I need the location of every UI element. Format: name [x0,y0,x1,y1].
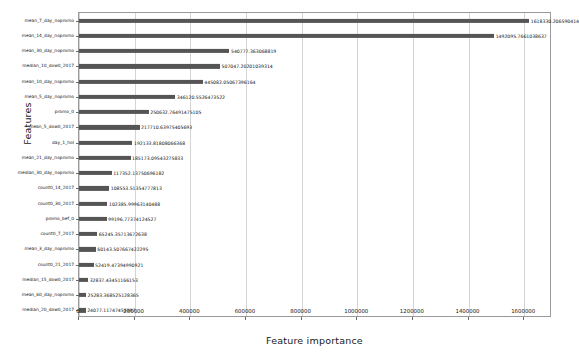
x-axis-tick-label: 1000000 [344,308,368,314]
y-axis-tick-label: mean_7_day_nopromo [0,17,74,22]
y-tick-mark [76,127,79,128]
bar [79,232,97,236]
x-axis-tick-label: 1200000 [400,308,424,314]
bar [79,202,107,206]
x-axis-tick-label: 0 [76,308,79,314]
x-tick-mark [523,317,524,320]
y-tick-mark [76,97,79,98]
bar [79,34,494,38]
y-tick-mark [76,36,79,37]
gridline-x-7 [469,13,470,316]
bar-value-label: 117352.13750696182 [113,171,164,176]
bar-value-label: 250632.76491475105 [150,110,201,115]
y-tick-mark [76,66,79,67]
bar [79,263,94,267]
bar-value-label: 346120.5526473522 [177,94,225,99]
y-tick-mark [76,265,79,266]
y-axis-tick-label: median_10_dow0_2017 [0,63,74,68]
y-axis-tick-label: count0_21_2017 [0,261,74,266]
y-axis-tick-label: mean_3_day_nopromo [0,246,74,251]
bar-value-label: 540777.363068819 [231,49,276,54]
x-tick-mark [78,317,79,320]
plot-area: 1618330.2065904141492095.766103863754077… [78,12,551,317]
y-tick-mark [76,173,79,174]
y-tick-mark [76,158,79,159]
bar-value-label: 52419.47394990921 [95,262,143,267]
bar [79,125,140,129]
bar [79,110,149,114]
bar [79,156,131,160]
y-tick-mark [76,234,79,235]
y-axis-tick-label: mean_14_day_nopromo [0,32,74,37]
gridline-x-8 [524,13,525,316]
x-axis-tick-label: 1400000 [456,308,480,314]
bar-value-label: 507047.20201039314 [222,64,273,69]
x-tick-mark [134,317,135,320]
y-tick-mark [76,280,79,281]
x-tick-mark [301,317,302,320]
y-axis-tick-label: median_20_dow0_2017 [0,307,74,312]
x-axis-tick-label: 200000 [123,308,144,314]
y-tick-mark [76,249,79,250]
bar [79,95,175,99]
bar-value-label: 217710.63975405693 [141,125,192,130]
gridline-x-1 [135,13,136,316]
y-axis-tick-label: mean_5_day_nopromo [0,93,74,98]
bar-value-label: 60143.507667422295 [97,247,148,252]
x-tick-mark [189,317,190,320]
y-tick-mark [76,143,79,144]
x-axis-tick-label: 1600000 [511,308,535,314]
bar [79,293,86,297]
bar [79,278,88,282]
y-tick-mark [76,82,79,83]
y-axis-tick-label: mean_30_day_nopromo [0,48,74,53]
y-tick-mark [76,21,79,22]
bar [79,217,107,221]
bar-value-label: 25283.368525128365 [88,293,139,298]
gridline-x-4 [302,13,303,316]
x-tick-mark [468,317,469,320]
x-axis-tick-label: 600000 [235,308,256,314]
y-tick-mark [76,219,79,220]
bar-value-label: 99196.77374124527 [108,216,156,221]
y-axis-tick-label: day_1_hol [0,139,74,144]
y-axis-tick-label: count0_7_2017 [0,231,74,236]
bar-value-label: 108553.51354777813 [111,186,162,191]
bar [79,64,220,68]
bar-value-label: 445082.05067396164 [204,79,255,84]
x-tick-mark [412,317,413,320]
x-tick-mark [356,317,357,320]
y-axis-tick-label: count0_30_2017 [0,200,74,205]
y-axis-tick-label: median_15_dow0_2017 [0,276,74,281]
y-axis-tick-label: mean_10_day_nopromo [0,78,74,83]
y-axis-tick-label: count0_14_2017 [0,185,74,190]
y-axis-tick-label: promo_0 [0,109,74,114]
bar [79,19,529,23]
y-tick-mark [76,51,79,52]
bar [79,141,132,145]
y-axis-tick-label: promo_bef_0 [0,215,74,220]
bar-value-label: 32837.43451166153 [90,277,138,282]
y-axis-tick-label: mean_5_dow0_2017 [0,124,74,129]
x-tick-mark [245,317,246,320]
bar [79,186,109,190]
gridline-x-0 [79,13,80,316]
bar-value-label: 65245.35713672638 [99,232,147,237]
gridline-x-6 [413,13,414,316]
bar-value-label: 1618330.206590414 [531,18,579,23]
y-tick-mark [76,295,79,296]
y-axis-tick-label: mean_60_day_nopromo [0,292,74,297]
x-axis-tick-label: 800000 [290,308,311,314]
bar [79,80,203,84]
bar [79,49,229,53]
bar [79,171,112,175]
bar-value-label: 1492095.7661038637 [496,33,547,38]
x-axis-label: Feature importance [78,335,551,346]
bar-value-label: 102385.99963140488 [109,201,160,206]
x-axis-tick-label: 400000 [179,308,200,314]
bar-value-label: 192133.81808066368 [134,140,185,145]
y-tick-mark [76,188,79,189]
y-axis-tick-label: mean_21_day_nopromo [0,154,74,159]
gridline-x-3 [246,13,247,316]
bar-value-label: 185173.09543275833 [132,155,183,160]
